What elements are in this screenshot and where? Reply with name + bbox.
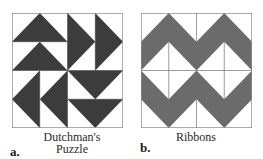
- ribbons-block: [141, 13, 252, 128]
- panel-label-a: a.: [10, 145, 20, 158]
- flying-geese: [12, 13, 123, 128]
- dutchmans-puzzle-diagram: [12, 13, 123, 128]
- caption-b: Ribbons: [166, 131, 226, 143]
- panel-label-b: b.: [140, 141, 150, 154]
- ribbons-diagram: [141, 13, 252, 128]
- caption-a: Dutchman's Puzzle: [42, 131, 102, 155]
- caption-a-line2: Puzzle: [42, 143, 102, 155]
- dutchmans-puzzle-block: [12, 13, 123, 128]
